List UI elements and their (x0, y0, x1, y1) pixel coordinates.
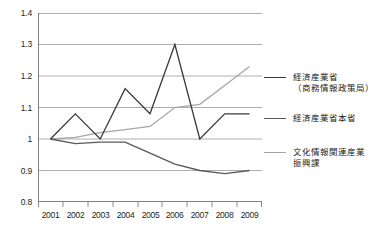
legend-label-honsho: 経済産業省本省 (293, 113, 356, 124)
legend-label-shomu-joho-seisakukyoku: 経済産業省 （商務情報政策局） (293, 72, 374, 94)
y-tick-label-0-9: 0.9 (4, 166, 32, 176)
line-chart: 1.4 1.3 1.2 1.1 1 0.9 0.8 (0, 0, 382, 237)
y-tick-label-1-4: 1.4 (4, 8, 32, 18)
y-tick-label-1-3: 1.3 (4, 39, 32, 49)
x-tick-label-2009: 2009 (233, 210, 266, 220)
legend-label-line1: 経済産業省本省 (293, 113, 356, 124)
y-tick-label-1-1: 1.1 (4, 103, 32, 113)
legend-label-line2: 振興課 (293, 158, 365, 169)
legend-item-bunka-joho: 文化情報関連産業 振興課 (264, 147, 365, 169)
legend-label-bunka-joho: 文化情報関連産業 振興課 (293, 147, 365, 169)
legend-item-honsho: 経済産業省本省 (264, 113, 356, 124)
series-line-shomu-joho-seisakukyoku (50, 45, 249, 140)
series-line-honsho (50, 139, 249, 174)
plot-area (38, 13, 262, 202)
legend-swatch-line-icon (264, 152, 286, 153)
legend-label-line1: 文化情報関連産業 (293, 147, 365, 158)
legend-swatch-line-icon (264, 77, 286, 78)
series-line-bunka-joho (50, 67, 249, 139)
y-tick-label-1-2: 1.2 (4, 71, 32, 81)
legend-swatch-line-icon (264, 118, 286, 119)
legend-item-shomu-joho-seisakukyoku: 経済産業省 （商務情報政策局） (264, 72, 374, 94)
gridlines (38, 14, 262, 171)
legend-label-line2: （商務情報政策局） (293, 83, 374, 94)
legend-label-line1: 経済産業省 (293, 72, 374, 83)
y-tick-label-0-8: 0.8 (4, 197, 32, 207)
y-tick-label-1: 1 (4, 134, 32, 144)
x-axis-ticks (38, 202, 262, 208)
